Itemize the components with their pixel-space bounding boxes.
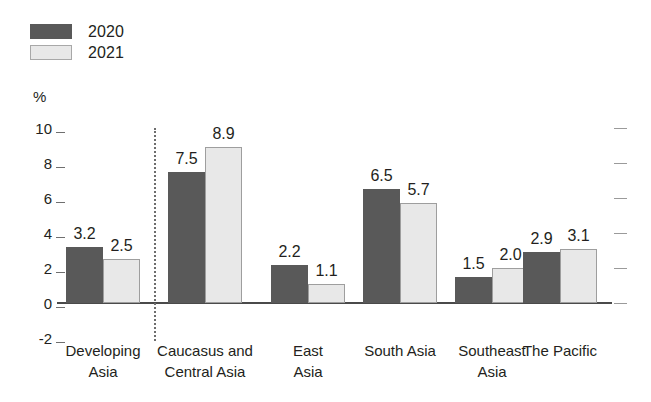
bar-2020-3	[363, 189, 400, 303]
legend-label-2021: 2021	[88, 44, 124, 62]
bar-chart: 2020 2021 % 1086420-23.22.5Developing As…	[0, 0, 651, 402]
y-axis-tick-mark	[56, 202, 65, 203]
bar-value-label: 2.2	[278, 243, 300, 261]
bar-2021-2	[308, 284, 345, 303]
bar-value-label: 6.5	[370, 167, 392, 185]
chart-legend: 2020 2021	[30, 21, 124, 63]
x-axis-category-label: Southeast Asia	[458, 340, 526, 382]
legend-swatch-2020-icon	[30, 24, 72, 39]
y-axis-tick-label: 2	[22, 260, 52, 277]
y-axis-tick-label: 10	[22, 120, 52, 137]
y-axis-tick-label: 4	[22, 225, 52, 242]
y-axis-tick-mark-right	[614, 268, 627, 269]
y-axis-tick-mark-right	[614, 233, 627, 234]
bar-2020-5	[523, 252, 560, 303]
bar-2021-1	[205, 147, 242, 303]
x-axis-category-label: South Asia	[364, 340, 436, 361]
y-axis-tick-mark	[56, 272, 65, 273]
y-axis-tick-mark-right	[614, 128, 627, 129]
x-axis-category-label: Developing Asia	[65, 340, 140, 382]
legend-swatch-2021-icon	[30, 45, 72, 60]
bar-value-label: 1.5	[462, 255, 484, 273]
x-axis-category-label: East Asia	[293, 340, 323, 382]
bar-2021-3	[400, 203, 437, 303]
y-axis-tick-mark-right	[614, 198, 627, 199]
category-group-separator	[154, 128, 156, 341]
y-axis-tick-label: 8	[22, 155, 52, 172]
bar-value-label: 7.5	[175, 150, 197, 168]
x-axis-category-label: The Pacific	[523, 340, 597, 361]
y-axis-tick-mark	[56, 307, 65, 308]
bar-value-label: 2.0	[499, 246, 521, 264]
y-axis-tick-mark	[56, 132, 65, 133]
y-axis-tick-label: 0	[22, 295, 52, 312]
bar-value-label: 2.9	[530, 230, 552, 248]
bar-value-label: 1.1	[315, 262, 337, 280]
bar-value-label: 3.1	[567, 227, 589, 245]
bar-value-label: 2.5	[110, 237, 132, 255]
bar-2021-0	[103, 259, 140, 303]
bar-2020-1	[168, 172, 205, 303]
bar-value-label: 3.2	[73, 225, 95, 243]
y-axis-tick-mark	[56, 237, 65, 238]
bar-value-label: 8.9	[212, 125, 234, 143]
legend-label-2020: 2020	[88, 23, 124, 41]
y-axis-tick-mark-right	[614, 303, 627, 304]
legend-item-2020: 2020	[30, 21, 124, 42]
y-axis-tick-mark-right	[614, 163, 627, 164]
bar-2020-2	[271, 265, 308, 304]
bar-2021-5	[560, 249, 597, 303]
y-axis-tick-mark	[56, 167, 65, 168]
y-axis-tick-mark	[56, 342, 65, 343]
y-axis-unit-label: %	[33, 88, 46, 105]
legend-item-2021: 2021	[30, 42, 124, 63]
bar-value-label: 5.7	[407, 181, 429, 199]
bar-2020-4	[455, 277, 492, 303]
bar-2020-0	[66, 247, 103, 303]
y-axis-tick-label: -2	[22, 330, 52, 347]
y-axis-tick-label: 6	[22, 190, 52, 207]
x-axis-category-label: Caucasus and Central Asia	[157, 340, 253, 382]
